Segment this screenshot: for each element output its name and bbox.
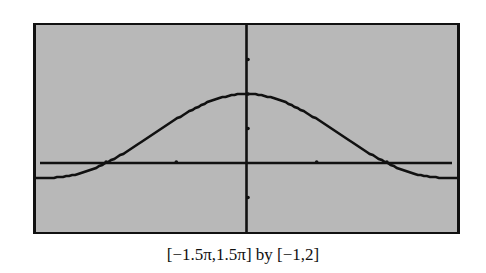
x-tick [315, 160, 319, 164]
y-tick [246, 127, 250, 131]
y-tick [246, 196, 250, 200]
x-tick [175, 160, 179, 164]
plot-area [0, 0, 486, 273]
y-tick [246, 58, 250, 62]
axes [40, 25, 452, 232]
window-caption: [−1.5π,1.5π] by [−1,2] [0, 245, 486, 265]
